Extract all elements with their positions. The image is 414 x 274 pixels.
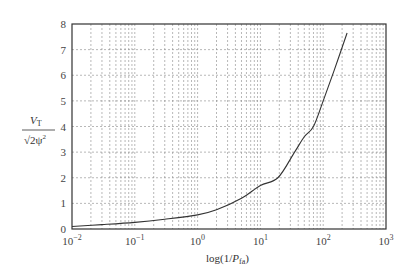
- svg-text:101: 101: [253, 233, 268, 247]
- chart: 012345678 10−210−1100101102103 log(1/Pfa…: [0, 0, 414, 274]
- svg-text:10−1: 10−1: [125, 233, 145, 247]
- svg-text:103: 103: [379, 233, 394, 247]
- x-tick-labels: 10−210−1100101102103: [62, 233, 393, 247]
- svg-text:2: 2: [61, 172, 67, 184]
- svg-text:5: 5: [61, 95, 67, 107]
- svg-text:√2ψ2: √2ψ2: [24, 133, 46, 146]
- svg-text:log(1/Pfa): log(1/Pfa): [206, 252, 249, 266]
- svg-text:7: 7: [61, 44, 67, 56]
- svg-text:102: 102: [316, 233, 331, 247]
- svg-text:8: 8: [61, 18, 67, 30]
- data-curve: [72, 33, 347, 226]
- svg-text:0: 0: [61, 223, 67, 235]
- y-tick-labels: 012345678: [61, 18, 67, 235]
- svg-text:3: 3: [61, 146, 67, 158]
- svg-text:6: 6: [61, 69, 67, 81]
- svg-text:1: 1: [61, 197, 67, 209]
- svg-text:100: 100: [190, 233, 205, 247]
- y-axis-label: VT √2ψ2: [22, 114, 55, 146]
- svg-text:10−2: 10−2: [62, 233, 82, 247]
- svg-text:4: 4: [61, 121, 67, 133]
- x-axis-label: log(1/Pfa): [206, 252, 249, 266]
- grid-lines: [72, 24, 386, 229]
- svg-text:VT: VT: [30, 114, 42, 128]
